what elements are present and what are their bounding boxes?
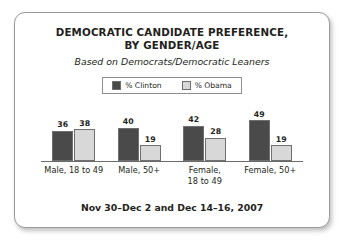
x-axis-line: [41, 161, 303, 162]
category-label-line: 18 to 49: [174, 176, 236, 187]
bar: [140, 145, 161, 161]
bar-column: 36: [52, 120, 73, 161]
legend-box: % Clinton % Obama: [102, 77, 242, 94]
bar: [74, 129, 95, 161]
bar-groups: 3638401942284919: [41, 104, 303, 161]
chart-card: DEMOCRATIC CANDIDATE PREFERENCE, BY GEND…: [14, 12, 330, 228]
bar: [183, 126, 204, 161]
bar: [205, 138, 226, 161]
category-label: Female,18 to 49: [174, 165, 236, 186]
bar: [271, 145, 292, 161]
bar-column: 38: [74, 119, 95, 161]
bar-value-label: 38: [79, 119, 90, 128]
bar-column: 19: [271, 135, 292, 161]
legend-label-obama: % Obama: [195, 81, 232, 90]
title-block: DEMOCRATIC CANDIDATE PREFERENCE, BY GEND…: [15, 13, 329, 68]
legend-item-clinton: % Clinton: [112, 81, 161, 90]
bar-value-label: 49: [254, 110, 265, 119]
chart-subtitle: Based on Democrats/Democratic Leaners: [15, 56, 329, 68]
category-label-line: Female, 50+: [239, 165, 301, 176]
category-label: Male, 18 to 49: [43, 165, 105, 176]
page-title: DEMOCRATIC CANDIDATE PREFERENCE, BY GEND…: [15, 26, 329, 52]
legend: % Clinton % Obama: [15, 77, 329, 94]
bar-group: 4228: [183, 115, 226, 161]
category-label: Female, 50+: [239, 165, 301, 176]
bar-column: 28: [205, 127, 226, 161]
chart-title-line-1: DEMOCRATIC CANDIDATE PREFERENCE,: [15, 26, 329, 39]
chart-footer: Nov 30–Dec 2 and Dec 14–16, 2007: [15, 202, 329, 213]
bar-column: 19: [140, 135, 161, 161]
bar-value-label: 28: [210, 127, 221, 136]
bar-value-label: 19: [276, 135, 287, 144]
chart-title-line-2: BY GENDER/AGE: [15, 39, 329, 52]
plot-area: 3638401942284919: [41, 104, 303, 162]
bar-group: 4919: [249, 110, 292, 161]
bar-value-label: 36: [57, 120, 68, 129]
bar-group: 3638: [52, 119, 95, 161]
bar: [118, 128, 139, 161]
bar-column: 49: [249, 110, 270, 161]
category-label-line: Female,: [174, 165, 236, 176]
legend-swatch-icon: [182, 81, 191, 90]
bar: [249, 120, 270, 161]
category-label: Male, 50+: [108, 165, 170, 176]
bar: [52, 131, 73, 161]
category-labels: Male, 18 to 49Male, 50+Female,18 to 49Fe…: [41, 165, 303, 186]
bar-value-label: 42: [188, 115, 199, 124]
bar-column: 40: [118, 117, 139, 161]
bar-value-label: 40: [123, 117, 134, 126]
bar-group: 4019: [118, 117, 161, 161]
bar-value-label: 19: [145, 135, 156, 144]
legend-label-clinton: % Clinton: [125, 81, 161, 90]
bar-column: 42: [183, 115, 204, 161]
category-label-line: Male, 18 to 49: [43, 165, 105, 176]
legend-swatch-icon: [112, 81, 121, 90]
legend-item-obama: % Obama: [182, 81, 232, 90]
category-label-line: Male, 50+: [108, 165, 170, 176]
